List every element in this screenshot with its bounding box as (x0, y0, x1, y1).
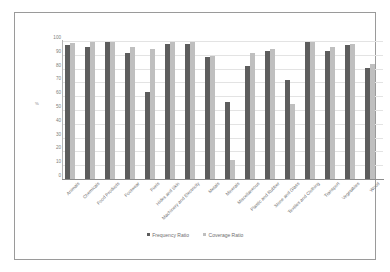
y-tick-label: 70 (39, 76, 61, 81)
bar-group (63, 41, 83, 179)
bar[interactable] (350, 44, 355, 179)
bar[interactable] (150, 49, 155, 179)
plot-area (63, 41, 383, 179)
bar-group (223, 41, 243, 179)
bar-group (303, 41, 323, 179)
bar[interactable] (265, 51, 270, 179)
bar[interactable] (305, 42, 310, 179)
bar[interactable] (70, 43, 75, 179)
bar[interactable] (90, 42, 95, 179)
bar-group (363, 41, 383, 179)
bar[interactable] (165, 44, 170, 179)
bar[interactable] (65, 45, 70, 179)
bar[interactable] (210, 56, 215, 179)
bar-group (103, 41, 123, 179)
bar[interactable] (190, 42, 195, 179)
bar-group (163, 41, 183, 179)
bar[interactable] (145, 92, 150, 179)
y-tick-label: 30 (39, 131, 61, 136)
y-tick-label: 60 (39, 90, 61, 95)
bar[interactable] (345, 45, 350, 179)
legend-swatch-icon (203, 233, 206, 236)
bar[interactable] (225, 102, 230, 179)
y-axis-tick-labels: 1009080706050403020100 (39, 37, 61, 179)
bar[interactable] (250, 53, 255, 179)
bar[interactable] (230, 160, 235, 179)
bar[interactable] (105, 42, 110, 179)
bar[interactable] (330, 47, 335, 179)
bar-group (243, 41, 263, 179)
bar-group (283, 41, 303, 179)
legend-swatch-icon (147, 233, 150, 236)
bar[interactable] (365, 68, 370, 179)
bar-group (343, 41, 363, 179)
bar[interactable] (170, 42, 175, 179)
bar[interactable] (290, 104, 295, 179)
bar-group (183, 41, 203, 179)
bar-group (83, 41, 103, 179)
bar-group (263, 41, 283, 179)
bar-group (143, 41, 163, 179)
y-tick-label: 50 (39, 104, 61, 109)
bar[interactable] (310, 42, 315, 179)
y-tick-label: 80 (39, 62, 61, 67)
bar-group (123, 41, 143, 179)
bar[interactable] (110, 42, 115, 179)
y-axis-line (62, 40, 63, 180)
bar-group (323, 41, 343, 179)
y-tick-label: 40 (39, 117, 61, 122)
bar[interactable] (130, 47, 135, 179)
legend-item[interactable]: Frequency Ratio (147, 231, 189, 238)
x-axis-line (62, 179, 384, 180)
chart-legend: Frequency RatioCoverage Ratio (15, 231, 375, 238)
chart-plot-wrapper: % 1009080706050403020100 AnimalsChemical… (15, 13, 375, 259)
y-tick-label: 90 (39, 48, 61, 53)
legend-label: Frequency Ratio (152, 232, 189, 238)
bar[interactable] (370, 64, 375, 179)
chart-frame: % 1009080706050403020100 AnimalsChemical… (14, 12, 376, 260)
bar[interactable] (285, 80, 290, 179)
bar[interactable] (185, 44, 190, 179)
y-tick-label: 20 (39, 145, 61, 150)
bar[interactable] (325, 51, 330, 179)
legend-label: Coverage Ratio (209, 232, 244, 238)
bar[interactable] (205, 57, 210, 179)
y-tick-label: 10 (39, 159, 61, 164)
bar[interactable] (270, 49, 275, 179)
bar[interactable] (125, 53, 130, 179)
bar-group (203, 41, 223, 179)
legend-item[interactable]: Coverage Ratio (203, 231, 243, 238)
bar[interactable] (85, 47, 90, 179)
y-tick-label: 0 (39, 173, 61, 178)
y-tick-label: 100 (39, 35, 61, 40)
bar[interactable] (245, 66, 250, 179)
